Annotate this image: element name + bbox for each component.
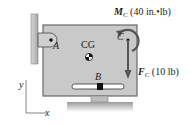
wall-support — [31, 14, 38, 64]
force-symbol: F — [138, 66, 145, 77]
label-a: A — [53, 41, 59, 51]
force-subscript: C — [145, 71, 150, 79]
label-c: C — [117, 32, 124, 42]
moment-value: (40 in.•lb) — [130, 6, 171, 17]
center-of-gravity-icon — [85, 53, 92, 60]
force-label: FC (10 lb) — [138, 67, 179, 79]
support-post — [91, 96, 108, 102]
moment-symbol: M — [114, 6, 123, 17]
label-cg: CG — [81, 40, 95, 50]
roller-pin-b-icon — [97, 83, 103, 90]
label-b: B — [95, 72, 101, 82]
moment-subscript: C — [123, 11, 128, 19]
label-y-axis: y — [19, 80, 23, 90]
label-x-axis: x — [45, 108, 49, 118]
support-base — [67, 102, 133, 112]
force-value: (10 lb) — [152, 66, 179, 77]
moment-label: MC (40 in.•lb) — [114, 7, 171, 19]
